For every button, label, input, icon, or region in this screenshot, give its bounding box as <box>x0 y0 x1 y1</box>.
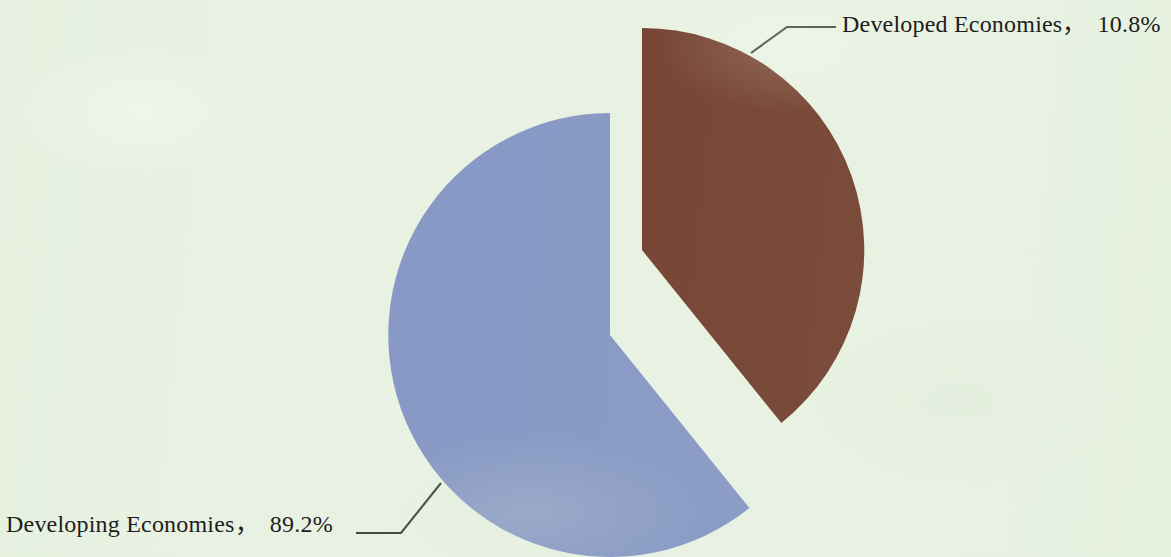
pie-chart-graphic <box>0 0 1171 557</box>
callout-label-developed-economies: Developed Economies，10.8% <box>842 12 1161 36</box>
leader-line-developing <box>356 483 441 533</box>
pie-slice-developed-economies[interactable] <box>642 28 864 423</box>
callout-value-developing: 89.2% <box>270 511 333 537</box>
leader-line-developed <box>751 27 836 53</box>
callout-value-developed: 10.8% <box>1098 11 1161 37</box>
callout-label-developed-text: Developed Economies， <box>842 11 1087 37</box>
callout-label-developing-economies: Developing Economies，89.2% <box>6 512 333 536</box>
callout-label-developing-text: Developing Economies， <box>6 511 259 537</box>
pie-chart-figure: Developed Economies，10.8% Developing Eco… <box>0 0 1171 557</box>
